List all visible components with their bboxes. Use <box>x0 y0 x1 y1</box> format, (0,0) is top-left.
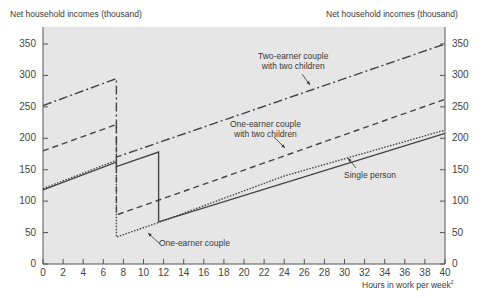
x-tick-label: 6 <box>96 267 110 278</box>
annotation-one-earner-children: One-earner couple with two children <box>230 119 301 139</box>
x-tick-label: 20 <box>237 267 251 278</box>
x-axis-label: Hours in work per week2 <box>362 279 454 290</box>
y-tick-label-left: 150 <box>19 164 36 175</box>
y-tick-label-left: 350 <box>19 38 36 49</box>
x-tick-label: 32 <box>358 267 372 278</box>
x-tick-label: 18 <box>217 267 231 278</box>
y-tick-label-left: 300 <box>19 69 36 80</box>
y-tick-label-right: 100 <box>452 195 469 206</box>
annotation-line: with two children <box>230 129 301 139</box>
x-tick-label: 40 <box>438 267 452 278</box>
y-tick-label-right: 0 <box>452 258 458 269</box>
x-tick-label: 4 <box>76 267 90 278</box>
annotation-line: with two children <box>258 61 328 71</box>
y-tick-label-left: 50 <box>25 227 36 238</box>
plot-area <box>43 27 445 264</box>
y-tick-label-right: 150 <box>452 164 469 175</box>
y-tick-label-right: 250 <box>452 101 469 112</box>
y-tick-label-right: 350 <box>452 38 469 49</box>
y-tick-label-right: 300 <box>452 69 469 80</box>
x-tick-label: 8 <box>116 267 130 278</box>
x-tick-label: 36 <box>398 267 412 278</box>
annotation-line: One-earner couple <box>230 119 301 129</box>
line-chart <box>0 0 488 298</box>
y-tick-label-right: 200 <box>452 132 469 143</box>
annotation-single-person: Single person <box>344 170 396 180</box>
x-tick-label: 28 <box>317 267 331 278</box>
y-tick-label-left: 250 <box>19 101 36 112</box>
x-tick-label: 10 <box>137 267 151 278</box>
annotation-one-earner-couple: One-earner couple <box>159 238 230 248</box>
x-axis-label-text: Hours in work per week <box>362 280 451 290</box>
x-tick-label: 38 <box>418 267 432 278</box>
x-axis-label-sup: 2 <box>451 279 454 285</box>
x-tick-label: 30 <box>338 267 352 278</box>
x-tick-label: 2 <box>56 267 70 278</box>
x-tick-label: 12 <box>157 267 171 278</box>
x-tick-label: 26 <box>297 267 311 278</box>
y-tick-label-left: 200 <box>19 132 36 143</box>
x-tick-label: 22 <box>257 267 271 278</box>
annotation-line: Two-earner couple <box>258 51 328 61</box>
annotation-two-earner: Two-earner couple with two children <box>258 51 328 71</box>
x-tick-label: 14 <box>177 267 191 278</box>
x-tick-label: 24 <box>277 267 291 278</box>
x-tick-label: 16 <box>197 267 211 278</box>
y-tick-label-right: 50 <box>452 227 463 238</box>
x-tick-label: 0 <box>36 267 50 278</box>
x-tick-label: 34 <box>378 267 392 278</box>
y-tick-label-left: 100 <box>19 195 36 206</box>
